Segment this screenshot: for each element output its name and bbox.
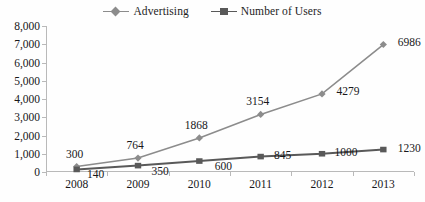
y-axis-label: 4,000 bbox=[0, 93, 40, 105]
square-marker-icon bbox=[257, 154, 263, 160]
y-axis-label: 7,000 bbox=[0, 38, 40, 50]
legend-label-number-of-users: Number of Users bbox=[241, 5, 322, 17]
plot-area: 3007641868315442796986140350600845100012… bbox=[46, 26, 414, 172]
x-tick bbox=[169, 172, 170, 176]
chart-legend: Advertising Number of Users bbox=[0, 2, 425, 20]
y-axis-label: 6,000 bbox=[0, 57, 40, 69]
x-tick bbox=[46, 172, 47, 176]
x-tick bbox=[353, 172, 354, 176]
square-marker-icon bbox=[319, 151, 325, 157]
data-label: 845 bbox=[274, 149, 291, 161]
square-marker-icon bbox=[380, 147, 386, 153]
legend-item-advertising: Advertising bbox=[103, 5, 188, 17]
x-axis-label: 2008 bbox=[47, 178, 107, 190]
data-label: 1000 bbox=[335, 146, 358, 158]
data-label: 764 bbox=[126, 139, 143, 151]
data-label: 600 bbox=[215, 160, 232, 172]
square-marker-icon bbox=[73, 167, 79, 173]
diamond-marker-icon bbox=[196, 134, 203, 141]
y-axis-label: 8,000 bbox=[0, 20, 40, 32]
x-tick bbox=[291, 172, 292, 176]
x-tick bbox=[230, 172, 231, 176]
x-tick bbox=[414, 172, 415, 176]
diamond-marker-icon bbox=[134, 154, 141, 161]
line-chart: Advertising Number of Users 300764186831… bbox=[0, 0, 425, 202]
diamond-marker-icon bbox=[257, 111, 264, 118]
data-label: 350 bbox=[151, 165, 168, 177]
x-axis-label: 2012 bbox=[292, 178, 352, 190]
square-marker-icon bbox=[135, 163, 141, 169]
legend-item-number-of-users: Number of Users bbox=[211, 5, 322, 17]
square-marker-icon bbox=[211, 6, 237, 17]
x-axis-label: 2009 bbox=[108, 178, 168, 190]
y-axis-label: 5,000 bbox=[0, 75, 40, 87]
square-marker-icon bbox=[196, 158, 202, 164]
x-axis-label: 2013 bbox=[353, 178, 413, 190]
series-lines bbox=[46, 26, 414, 172]
data-label: 3154 bbox=[246, 95, 269, 107]
data-label: 6986 bbox=[398, 36, 421, 48]
data-label: 4279 bbox=[337, 85, 360, 97]
data-label: 1868 bbox=[185, 119, 208, 131]
diamond-marker-icon bbox=[103, 6, 129, 17]
y-axis-label: 3,000 bbox=[0, 111, 40, 123]
data-label: 300 bbox=[66, 148, 83, 160]
x-axis-label: 2010 bbox=[169, 178, 229, 190]
legend-label-advertising: Advertising bbox=[133, 5, 188, 17]
x-axis-label: 2011 bbox=[231, 178, 291, 190]
y-axis-label: 0 bbox=[0, 166, 40, 178]
y-axis-label: 1,000 bbox=[0, 148, 40, 160]
x-tick bbox=[107, 172, 108, 176]
data-label: 1230 bbox=[398, 142, 421, 154]
y-axis-label: 2,000 bbox=[0, 130, 40, 142]
